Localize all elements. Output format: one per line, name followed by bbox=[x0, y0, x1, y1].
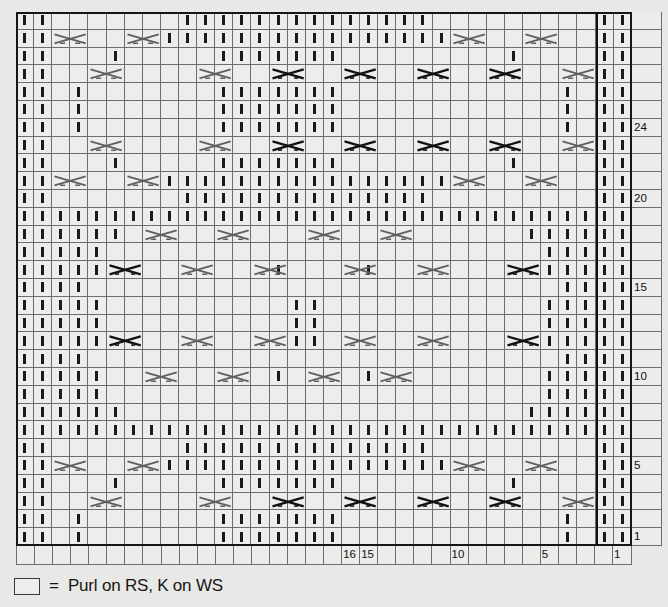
knit-cell[interactable] bbox=[161, 439, 179, 457]
knit-cell[interactable] bbox=[360, 48, 378, 66]
purl-cell[interactable] bbox=[215, 510, 233, 528]
purl-cell[interactable] bbox=[270, 439, 288, 457]
purl-cell[interactable] bbox=[614, 137, 632, 155]
purl-cell[interactable] bbox=[342, 12, 360, 30]
knit-cell[interactable] bbox=[125, 439, 143, 457]
purl-cell[interactable] bbox=[433, 457, 451, 475]
knit-cell[interactable] bbox=[125, 332, 143, 350]
knit-cell[interactable] bbox=[107, 332, 125, 350]
knit-cell[interactable] bbox=[469, 439, 487, 457]
purl-cell[interactable] bbox=[16, 439, 34, 457]
knit-cell[interactable] bbox=[179, 48, 197, 66]
purl-cell[interactable] bbox=[88, 421, 106, 439]
knit-cell[interactable] bbox=[451, 172, 469, 190]
knit-cell[interactable] bbox=[233, 65, 251, 83]
purl-cell[interactable] bbox=[34, 368, 52, 386]
purl-cell[interactable] bbox=[251, 154, 269, 172]
knit-cell[interactable] bbox=[52, 65, 70, 83]
purl-cell[interactable] bbox=[577, 297, 595, 315]
knit-cell[interactable] bbox=[577, 172, 595, 190]
purl-cell[interactable] bbox=[34, 154, 52, 172]
knit-cell[interactable] bbox=[342, 261, 360, 279]
knit-cell[interactable] bbox=[433, 137, 451, 155]
knit-cell[interactable] bbox=[577, 137, 595, 155]
knit-cell[interactable] bbox=[143, 510, 161, 528]
knit-cell[interactable] bbox=[487, 386, 505, 404]
purl-cell[interactable] bbox=[179, 421, 197, 439]
knit-cell[interactable] bbox=[451, 332, 469, 350]
knit-cell[interactable] bbox=[125, 261, 143, 279]
knit-cell[interactable] bbox=[215, 137, 233, 155]
purl-cell[interactable] bbox=[270, 457, 288, 475]
knit-cell[interactable] bbox=[469, 30, 487, 48]
purl-cell[interactable] bbox=[324, 439, 342, 457]
knit-cell[interactable] bbox=[433, 439, 451, 457]
knit-cell[interactable] bbox=[125, 154, 143, 172]
knit-cell[interactable] bbox=[541, 154, 559, 172]
knit-cell[interactable] bbox=[70, 190, 88, 208]
knit-cell[interactable] bbox=[233, 493, 251, 511]
knit-cell[interactable] bbox=[433, 297, 451, 315]
purl-cell[interactable] bbox=[559, 315, 577, 333]
knit-cell[interactable] bbox=[451, 315, 469, 333]
knit-cell[interactable] bbox=[469, 297, 487, 315]
purl-cell[interactable] bbox=[596, 208, 614, 226]
purl-cell[interactable] bbox=[559, 510, 577, 528]
knit-cell[interactable] bbox=[451, 83, 469, 101]
knit-cell[interactable] bbox=[487, 279, 505, 297]
knit-cell[interactable] bbox=[451, 65, 469, 83]
purl-cell[interactable] bbox=[270, 208, 288, 226]
purl-cell[interactable] bbox=[577, 261, 595, 279]
purl-cell[interactable] bbox=[596, 510, 614, 528]
purl-cell[interactable] bbox=[559, 101, 577, 119]
knit-cell[interactable] bbox=[197, 493, 215, 511]
knit-cell[interactable] bbox=[306, 279, 324, 297]
knit-cell[interactable] bbox=[88, 439, 106, 457]
purl-cell[interactable] bbox=[288, 475, 306, 493]
knit-cell[interactable] bbox=[541, 137, 559, 155]
knit-cell[interactable] bbox=[107, 137, 125, 155]
knit-cell[interactable] bbox=[342, 332, 360, 350]
knit-cell[interactable] bbox=[88, 510, 106, 528]
knit-cell[interactable] bbox=[414, 279, 432, 297]
knit-cell[interactable] bbox=[88, 12, 106, 30]
knit-cell[interactable] bbox=[306, 350, 324, 368]
knit-cell[interactable] bbox=[324, 404, 342, 422]
knit-cell[interactable] bbox=[378, 493, 396, 511]
knit-cell[interactable] bbox=[577, 154, 595, 172]
knit-cell[interactable] bbox=[559, 475, 577, 493]
knit-cell[interactable] bbox=[414, 404, 432, 422]
purl-cell[interactable] bbox=[88, 315, 106, 333]
knit-cell[interactable] bbox=[541, 510, 559, 528]
purl-cell[interactable] bbox=[34, 386, 52, 404]
knit-cell[interactable] bbox=[396, 475, 414, 493]
purl-cell[interactable] bbox=[306, 421, 324, 439]
knit-cell[interactable] bbox=[469, 528, 487, 546]
purl-cell[interactable] bbox=[251, 439, 269, 457]
knit-cell[interactable] bbox=[414, 65, 432, 83]
purl-cell[interactable] bbox=[288, 154, 306, 172]
knit-cell[interactable] bbox=[577, 30, 595, 48]
knit-cell[interactable] bbox=[125, 528, 143, 546]
knit-cell[interactable] bbox=[523, 368, 541, 386]
knit-cell[interactable] bbox=[107, 190, 125, 208]
knit-cell[interactable] bbox=[107, 457, 125, 475]
knit-cell[interactable] bbox=[360, 279, 378, 297]
purl-cell[interactable] bbox=[306, 190, 324, 208]
purl-cell[interactable] bbox=[396, 172, 414, 190]
purl-cell[interactable] bbox=[179, 457, 197, 475]
knit-cell[interactable] bbox=[433, 261, 451, 279]
knit-cell[interactable] bbox=[342, 510, 360, 528]
purl-cell[interactable] bbox=[288, 48, 306, 66]
knit-cell[interactable] bbox=[469, 83, 487, 101]
knit-cell[interactable] bbox=[378, 510, 396, 528]
knit-cell[interactable] bbox=[161, 404, 179, 422]
purl-cell[interactable] bbox=[306, 510, 324, 528]
purl-cell[interactable] bbox=[197, 12, 215, 30]
knit-cell[interactable] bbox=[505, 350, 523, 368]
knit-cell[interactable] bbox=[541, 65, 559, 83]
purl-cell[interactable] bbox=[378, 421, 396, 439]
purl-cell[interactable] bbox=[197, 421, 215, 439]
knit-cell[interactable] bbox=[70, 475, 88, 493]
knit-cell[interactable] bbox=[125, 48, 143, 66]
